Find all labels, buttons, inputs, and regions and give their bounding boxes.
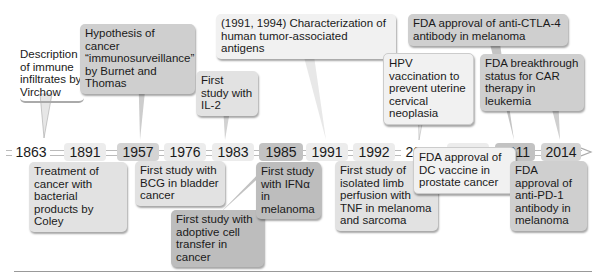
- event-2009-hpv-vaccination: HPV vaccination to prevent uterine cervi…: [383, 53, 474, 125]
- event-1985-ifn-alpha: First study with IFNα in melanoma: [256, 162, 321, 219]
- event-1985-adoptive-cell-transfer: First study with adoptive cell transfer …: [171, 210, 264, 267]
- year-1863: 1863: [12, 143, 50, 161]
- event-1863-virchow: Description of immune infiltrates by Vir…: [20, 48, 84, 103]
- event-1991-antigens: (1991, 1994) Characterization of human t…: [216, 14, 396, 59]
- event-2011-anti-ctla4: FDA approval of anti-CTLA-4 antibody in …: [408, 14, 568, 46]
- immunotherapy-timeline: 1863 1891 1957 1976 1983 1985 1991 1992 …: [0, 0, 604, 277]
- event-1976-bcg: First study with BCG in bladder cancer: [135, 161, 225, 206]
- year-1957: 1957: [117, 143, 159, 161]
- arrow-right-icon: [581, 145, 593, 159]
- event-1957-immunosurveillance: Hypothesis of cancer “immunosurveillance…: [80, 24, 195, 94]
- event-2014-car-therapy: FDA breakthrough status for CAR therapy …: [480, 54, 584, 111]
- bottom-divider: [14, 271, 592, 272]
- event-1983-il2: First study with IL-2: [196, 71, 258, 116]
- event-1891-coley: Treatment of cancer with bacterial produ…: [29, 162, 127, 232]
- event-2010-dc-vaccine: FDA approval of DC vaccine in prostate c…: [413, 147, 516, 194]
- year-2014: 2014: [541, 143, 581, 161]
- year-1985: 1985: [259, 143, 303, 161]
- year-1992: 1992: [353, 143, 395, 161]
- year-1976: 1976: [164, 143, 206, 161]
- year-1983: 1983: [212, 143, 254, 161]
- event-2014-anti-pd1: FDA approval of anti-PD-1 antibody in me…: [510, 161, 587, 231]
- year-1891: 1891: [64, 143, 106, 161]
- year-1991: 1991: [306, 143, 348, 161]
